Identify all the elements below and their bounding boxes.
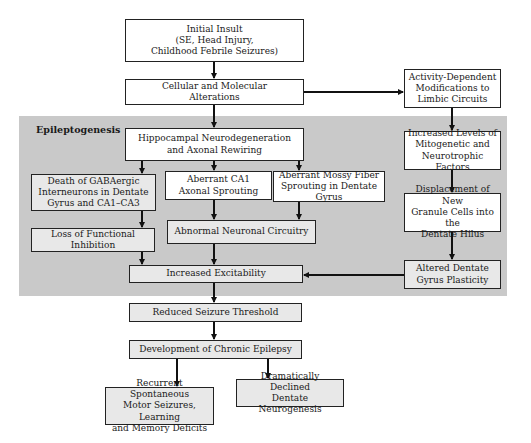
node-aberrant-ca1-sprouting: Aberrant CA1Axonal Sprouting <box>165 171 272 200</box>
node-displacement-granule-cells: Displacement of NewGranule Cells into th… <box>404 193 501 232</box>
node-increased-excitability: Increased Excitability <box>129 265 303 283</box>
node-hippocampal-neurodegeneration: Hippocampal Neurodegenerationand Axonal … <box>125 128 304 161</box>
node-reduced-seizure-threshold: Reduced Seizure Threshold <box>129 303 302 322</box>
node-loss-functional-inhibition: Loss of Functional Inhibition <box>31 228 155 252</box>
node-initial-insult: Initial Insult(SE, Head Injury,Childhood… <box>125 19 304 62</box>
node-death-gabaergic-interneurons: Death of GABAergicInterneurons in Dentat… <box>31 174 156 211</box>
node-activity-dependent-modifications: Activity-DependentModifications toLimbic… <box>404 69 501 108</box>
node-abnormal-neuronal-circuitry: Abnormal Neuronal Circuitry <box>167 220 316 244</box>
node-declined-neurogenesis: Dramatically DeclinedDentate Neurogenesi… <box>236 379 344 407</box>
node-cellular-molecular-alterations: Cellular and MolecularAlterations <box>125 79 304 105</box>
node-chronic-epilepsy: Development of Chronic Epilepsy <box>129 340 302 359</box>
node-aberrant-mossy-fiber-sprouting: Aberrant Mossy FiberSprouting in Dentate… <box>273 171 385 202</box>
node-recurrent-seizures-deficits: Recurrent SpontaneousMotor Seizures, Lea… <box>105 387 214 425</box>
node-increased-levels-factors: Increased Levels ofMitogenetic andNeurot… <box>404 131 501 170</box>
node-altered-dentate-plasticity: Altered DentateGyrus Plasticity <box>404 260 501 289</box>
